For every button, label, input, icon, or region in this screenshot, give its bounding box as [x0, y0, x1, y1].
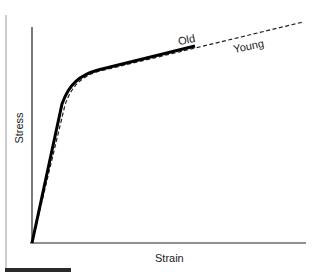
stress-strain-chart: Old Young Strain Stress [0, 0, 314, 272]
frame-bottom-bar [5, 268, 71, 272]
y-axis-label: Stress [13, 112, 25, 144]
series-old-line [32, 46, 195, 243]
young-label: Young [232, 37, 265, 55]
x-axis-label: Strain [155, 252, 184, 264]
series-young-line [32, 22, 303, 243]
